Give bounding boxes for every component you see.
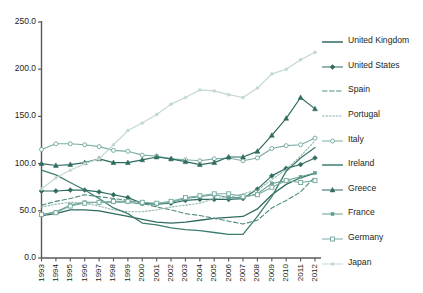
legend-item-greece[interactable]: Greece [322, 176, 423, 201]
x-tick-label: 2005 [210, 264, 218, 282]
y-tick-label: 0.0 [0, 253, 36, 262]
data-point [155, 113, 158, 116]
data-point [330, 64, 335, 69]
data-point [313, 156, 318, 161]
x-tick-label: 2010 [282, 264, 290, 282]
legend-label: France [348, 207, 375, 217]
data-point [54, 142, 58, 146]
legend-label: Portugal [348, 109, 380, 119]
legend-item-ireland[interactable]: Ireland [322, 151, 423, 176]
data-point [198, 194, 202, 198]
legend-swatch-icon [322, 83, 343, 95]
data-point [97, 190, 102, 195]
data-point [227, 192, 231, 196]
data-point [284, 179, 288, 183]
legend-swatch-icon [322, 231, 343, 243]
data-point [284, 144, 288, 148]
data-point [212, 192, 216, 196]
data-point [111, 148, 115, 152]
data-point [53, 189, 58, 194]
legend-swatch-icon [322, 133, 343, 145]
data-point [68, 188, 73, 193]
legend-swatch-icon [322, 157, 343, 169]
legend-label: Germany [348, 232, 383, 242]
x-tick-label: 2000 [138, 264, 146, 282]
data-point [112, 143, 115, 146]
data-point [242, 96, 245, 99]
legend-swatch-icon [322, 108, 343, 120]
data-point [331, 237, 335, 241]
legend-item-united-states[interactable]: United States [322, 53, 423, 78]
series-line [42, 98, 316, 166]
data-point [256, 87, 259, 90]
data-point [111, 192, 116, 197]
x-tick-label: 2001 [153, 264, 161, 282]
data-point [97, 145, 101, 149]
data-point [126, 199, 130, 203]
data-point [241, 159, 245, 163]
series-germany [40, 179, 318, 217]
data-point [314, 172, 317, 175]
data-point [126, 129, 129, 132]
data-point [299, 180, 303, 184]
chart-legend: United KingdomUnited StatesSpainPortugal… [322, 28, 423, 274]
legend-label: Italy [348, 134, 364, 144]
legend-item-portugal[interactable]: Portugal [322, 102, 423, 127]
x-tick-label: 2006 [225, 264, 233, 282]
data-point [68, 142, 72, 146]
x-tick-label: 2011 [297, 264, 305, 281]
data-point [98, 157, 101, 160]
series-italy [40, 136, 318, 163]
data-point [126, 149, 130, 153]
legend-item-spain[interactable]: Spain [322, 77, 423, 102]
data-point [255, 156, 259, 160]
x-tick-label: 1997 [95, 264, 103, 282]
data-point [331, 262, 334, 265]
legend-label: Greece [348, 183, 376, 193]
data-point [313, 179, 317, 183]
data-point [170, 103, 173, 106]
legend-swatch-icon [322, 206, 343, 218]
x-tick-label: 2002 [167, 264, 175, 282]
legend-label: United States [348, 60, 400, 70]
data-point [331, 213, 334, 216]
data-point [313, 136, 317, 140]
x-tick-label: 2008 [253, 264, 261, 282]
data-point [40, 213, 44, 217]
legend-item-japan[interactable]: Japan [322, 249, 423, 274]
data-point [285, 68, 288, 71]
x-tick-label: 2003 [181, 264, 189, 282]
x-tick-label: 1995 [66, 264, 74, 282]
data-point [198, 88, 201, 91]
x-tick-label: 1999 [124, 264, 132, 282]
data-point [54, 211, 58, 215]
data-point [183, 196, 187, 200]
data-point [270, 72, 273, 75]
data-point [299, 175, 302, 178]
data-point [298, 95, 303, 100]
x-tick-label: 2009 [268, 264, 276, 282]
series-japan [40, 51, 317, 191]
data-point [270, 185, 274, 189]
data-point [227, 196, 230, 199]
legend-label: Spain [348, 84, 370, 94]
y-tick-label: 250.0 [0, 17, 36, 26]
x-tick-label: 1994 [52, 264, 60, 282]
data-point [227, 93, 230, 96]
data-point [83, 162, 86, 165]
data-point [54, 176, 57, 179]
legend-item-united-kingdom[interactable]: United Kingdom [322, 28, 423, 53]
legend-item-germany[interactable]: Germany [322, 225, 423, 250]
legend-item-france[interactable]: France [322, 200, 423, 225]
y-tick-label: 50.0 [0, 206, 36, 215]
x-tick-label: 1993 [38, 264, 46, 282]
series-line [42, 173, 316, 223]
data-point [140, 200, 144, 204]
data-point [255, 193, 259, 197]
y-tick-label: 100.0 [0, 159, 36, 168]
data-point [68, 204, 72, 208]
legend-item-italy[interactable]: Italy [322, 126, 423, 151]
data-point [298, 162, 303, 167]
legend-swatch-icon [322, 256, 343, 268]
legend-swatch-icon [322, 182, 343, 194]
